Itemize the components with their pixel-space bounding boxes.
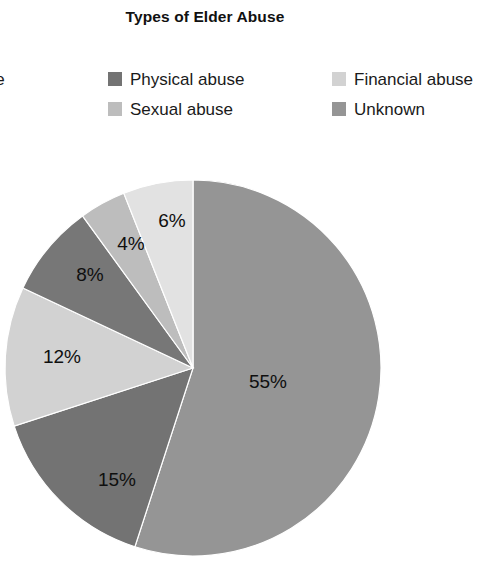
pie-slice-label: 15%	[98, 469, 136, 490]
pie-slice-label: 12%	[43, 346, 81, 367]
pie-chart-svg: 55%15%12%8%4%6%	[0, 0, 496, 561]
pie-slice-group	[5, 180, 381, 556]
pie-chart: 55%15%12%8%4%6%	[0, 0, 496, 561]
pie-slice-label: 4%	[117, 233, 145, 254]
pie-slice-label: 6%	[158, 210, 186, 231]
chart-page: Types of Elder Abuse l abuse es Physical…	[0, 0, 496, 561]
pie-slice-label: 8%	[76, 264, 104, 285]
pie-slice-label: 55%	[249, 371, 287, 392]
